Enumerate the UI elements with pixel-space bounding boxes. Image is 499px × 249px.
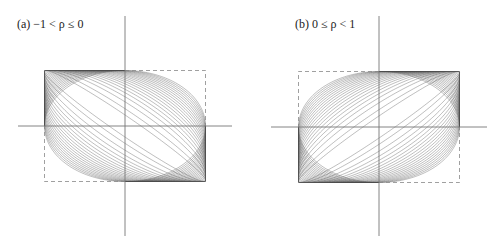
ellipse-plot-b: [0, 0, 499, 249]
panel-label-b: (b) 0 ≤ ρ < 1: [295, 17, 355, 32]
